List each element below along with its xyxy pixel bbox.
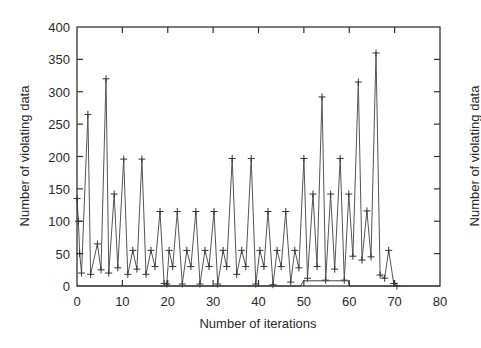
plus-marker [114,264,121,271]
plus-marker [103,75,110,82]
x-tick-label: 50 [297,294,311,309]
plus-marker [242,263,249,270]
plus-marker [385,247,392,254]
plot-frame [77,27,440,286]
y-tick-label: 0 [63,279,70,294]
y-tick-label: 50 [56,247,70,262]
plus-marker [169,263,176,270]
plus-marker [300,155,307,162]
plus-marker [270,281,277,288]
y-tick-label: 250 [48,117,70,132]
plus-marker [120,156,127,163]
y-tick-label: 100 [48,214,70,229]
plus-marker [368,253,375,260]
plus-marker [260,263,267,270]
plus-marker [174,208,181,215]
plus-marker [358,257,365,264]
plus-marker [363,207,370,214]
plus-marker [373,49,380,56]
plus-marker [94,240,101,247]
plus-marker [220,247,227,254]
plus-marker [314,263,321,270]
plus-marker [322,277,329,284]
plus-marker [355,79,362,86]
plus-marker [206,263,213,270]
plus-marker [345,191,352,198]
plus-marker [287,279,294,286]
plus-marker [142,271,149,278]
plus-marker [265,208,272,215]
y-axis-label: Number of violating data [17,85,32,227]
tick-labels: 0102030405060708005010015020025030035040… [48,20,447,309]
plot-area [74,49,441,289]
x-tick-label: 20 [161,294,175,309]
x-tick-label: 60 [342,294,356,309]
x-tick-label: 80 [433,294,447,309]
plus-marker [319,93,326,100]
plus-marker [211,208,218,215]
plus-marker [349,253,356,260]
plus-marker [133,266,140,273]
plus-marker [78,270,85,277]
y-axis-label-right: Number of violating data [467,85,481,227]
plus-marker [138,156,145,163]
plus-marker [291,247,298,254]
plus-marker [331,266,338,273]
y-tick-label: 350 [48,52,70,67]
plus-marker [327,191,334,198]
y-tick-label: 300 [48,85,70,100]
plus-marker [98,266,105,273]
axis-ticks [77,27,440,286]
y-tick-label: 400 [48,20,70,35]
x-axis-label: Number of iterations [199,316,317,331]
x-tick-label: 40 [251,294,265,309]
plus-marker [377,271,384,278]
plus-marker [309,191,316,198]
plus-marker [192,208,199,215]
plus-marker [282,208,289,215]
plus-marker [233,271,240,278]
plus-marker [337,155,344,162]
plus-marker [187,263,194,270]
plus-marker [274,247,281,254]
plus-marker [201,247,208,254]
line-chart: 0102030405060708005010015020025030035040… [0,0,481,348]
plus-marker [152,263,159,270]
plus-marker [111,191,118,198]
plus-marker [256,247,263,254]
plus-marker [295,264,302,271]
plus-marker [87,271,94,278]
plus-marker [105,270,112,277]
y-tick-label: 150 [48,182,70,197]
plus-marker [157,208,164,215]
plus-marker [229,155,236,162]
plus-marker [84,111,91,118]
x-tick-label: 30 [206,294,220,309]
plus-marker [183,247,190,254]
plus-marker [341,277,348,284]
plus-marker [129,247,136,254]
x-tick-label: 70 [387,294,401,309]
plus-marker [381,275,388,282]
plus-marker [278,263,285,270]
plus-marker [238,247,245,254]
x-tick-label: 0 [73,294,80,309]
plus-marker [223,263,230,270]
plus-marker [166,247,173,254]
plus-marker [248,155,255,162]
series-line [77,53,397,286]
y-tick-label: 200 [48,150,70,165]
plus-marker [147,247,154,254]
x-tick-label: 10 [115,294,129,309]
plus-marker [124,271,131,278]
